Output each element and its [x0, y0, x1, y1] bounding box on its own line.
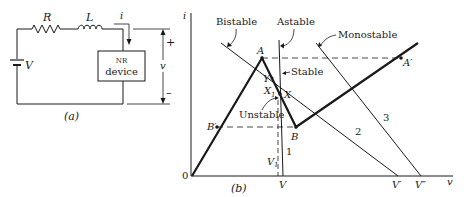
point-Y — [271, 77, 274, 80]
tick-V: V — [279, 179, 288, 190]
caption-a: (a) — [64, 110, 79, 123]
circuit-diagram: V R L i NR device — [10, 10, 175, 123]
minus-sign: – — [166, 86, 172, 99]
label-A-prime: A′ — [402, 57, 413, 68]
point-B — [294, 125, 298, 129]
monostable-leader-arrow-icon — [321, 35, 336, 45]
label-bistable: Bistable — [216, 16, 257, 27]
label-X: X — [283, 89, 292, 100]
device-iv-curve — [192, 43, 418, 176]
plus-sign: + — [166, 36, 175, 49]
label-B-prime: B′ — [206, 121, 217, 132]
label-astable: Astable — [276, 16, 315, 27]
point-A — [260, 56, 264, 60]
label-A: A — [256, 45, 264, 56]
y-axis-label: i — [183, 10, 186, 21]
voltage-label: v — [160, 60, 166, 71]
tick-V-double-prime: V″ — [415, 179, 426, 190]
battery-icon — [10, 60, 24, 71]
label-stable: Stable — [291, 66, 323, 77]
bistable-leader-arrow-icon — [230, 29, 236, 45]
device-label-nr: NR — [116, 57, 128, 65]
stable-arrowhead-icon — [282, 71, 286, 75]
unstable-arrowhead-icon — [275, 96, 279, 100]
inductor-icon — [78, 25, 102, 29]
load-line-number-1: 1 — [286, 146, 292, 157]
astable-arrowhead-icon — [280, 43, 284, 49]
astable-leader-arrow-icon — [283, 29, 294, 46]
figure-canvas: V R L i NR device — [0, 0, 467, 197]
resistor-label: R — [42, 11, 51, 24]
tick-V1-subscript: 1 — [274, 161, 278, 169]
inductor-label: L — [85, 11, 93, 24]
point-X1 — [278, 92, 282, 96]
bistable-arrowhead-icon — [227, 42, 232, 47]
x-axis-label: v — [447, 176, 453, 187]
load-line-number-3: 3 — [383, 112, 389, 123]
tick-V-prime: V′ — [392, 179, 402, 190]
load-line-number-2: 2 — [355, 126, 361, 137]
source-label: V — [25, 59, 34, 72]
label-B: B — [290, 131, 298, 142]
label-monostable: Monostable — [338, 29, 397, 40]
origin-label: 0 — [182, 170, 188, 181]
current-label: i — [120, 10, 123, 21]
resistor-icon — [32, 25, 60, 33]
caption-b: (b) — [231, 182, 247, 195]
load-line-astable — [279, 40, 283, 176]
device-label-device: device — [105, 66, 138, 77]
iv-characteristic-plot: i v 0 A A′ B B′ Y X X 1 V 1 V V′ — [182, 10, 453, 195]
label-unstable: Unstable — [239, 109, 285, 120]
